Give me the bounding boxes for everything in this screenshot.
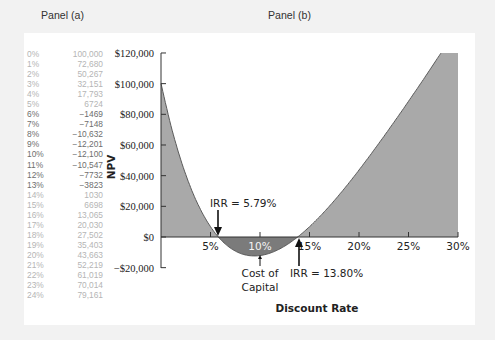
y-tick-label: $100,000: [115, 79, 154, 90]
y-tick-label: $0: [144, 232, 155, 243]
y-axis-ticks: $120,000$100,000$80,000$60,000$40,000$20…: [114, 48, 166, 274]
y-tick-label: −$20,000: [114, 263, 154, 274]
y-tick-label: $60,000: [120, 140, 154, 151]
x-tick-label: 20%: [347, 240, 370, 252]
irr-high-label: IRR = 13.80%: [290, 267, 363, 279]
positive-npv-area: [161, 53, 458, 237]
x-tick-label: 30%: [446, 240, 469, 252]
npv-chart: $120,000$100,000$80,000$60,000$40,000$20…: [0, 0, 495, 340]
x-axis-label: Discount Rate: [276, 302, 359, 314]
y-tick-label: $120,000: [115, 48, 154, 59]
cost-of-capital-label-1: Cost of: [242, 267, 279, 279]
cost-of-capital-label-2: Capital: [242, 281, 279, 293]
y-tick-label: $20,000: [120, 201, 154, 212]
y-tick-label: $40,000: [120, 171, 154, 182]
x-tick-label: 5%: [202, 240, 219, 252]
y-tick-label: $80,000: [120, 109, 154, 120]
irr-low-label: IRR = 5.79%: [210, 197, 277, 209]
y-axis-label: NPV: [105, 154, 117, 179]
x-tick-label: 25%: [397, 240, 420, 252]
x-tick-label: 10%: [248, 240, 271, 252]
